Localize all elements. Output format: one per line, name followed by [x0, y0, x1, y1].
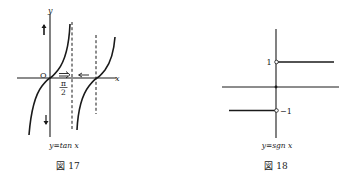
up-arrow-icon	[42, 24, 47, 35]
right-double-arrow-icon	[59, 72, 70, 79]
left-arrow-icon	[79, 73, 90, 77]
fig18-tick-neg1: −1	[280, 107, 292, 116]
fig17-tick-pi: π	[61, 79, 66, 88]
fig18-filled-dot-origin	[275, 86, 278, 89]
figure-canvas: y x O π 2 y=tan x 図 17 1 −1 y=sgn x 図 18	[0, 0, 352, 179]
fig18-function-label: y=sgn x	[261, 141, 293, 150]
figure-17: y x O π 2 y=tan x 図 17	[17, 6, 120, 171]
fig18-tick-1: 1	[266, 58, 271, 67]
fig17-origin-label: O	[40, 71, 47, 80]
fig17-caption: 図 17	[56, 161, 80, 171]
fig18-open-circle-positive	[275, 60, 279, 64]
figure-18: 1 −1 y=sgn x 図 18	[222, 29, 339, 171]
fig17-tick-2: 2	[61, 88, 66, 97]
fig18-caption: 図 18	[264, 161, 288, 171]
fig17-function-label: y=tan x	[48, 141, 79, 150]
fig17-x-axis-label: x	[115, 74, 120, 83]
down-arrow-icon	[44, 115, 49, 125]
fig17-y-axis-label: y	[47, 6, 53, 15]
fig18-open-circle-negative	[275, 109, 279, 113]
